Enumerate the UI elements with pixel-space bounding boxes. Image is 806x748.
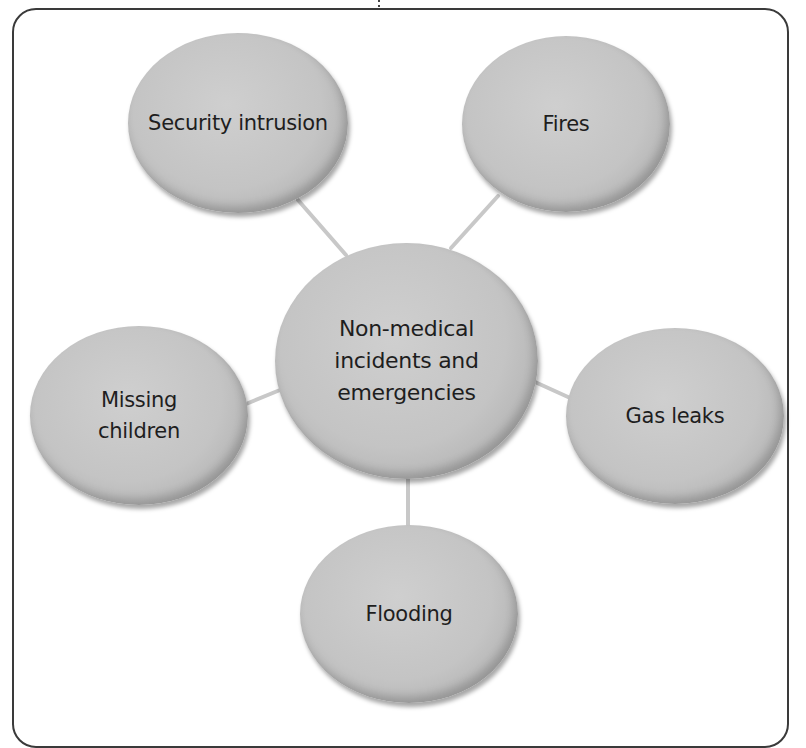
node-label: Security intrusion bbox=[148, 108, 328, 138]
node-label: Gas leaks bbox=[626, 401, 725, 431]
node-label-line-1: Missing bbox=[98, 385, 180, 415]
node-label-line-2: children bbox=[98, 416, 180, 446]
center-label-line-1: Non-medical bbox=[334, 313, 478, 345]
center-label-line-2: incidents and bbox=[334, 345, 478, 377]
node-security-intrusion: Security intrusion bbox=[128, 33, 348, 213]
node-gas-leaks: Gas leaks bbox=[566, 328, 784, 504]
node-missing-children: Missing children bbox=[30, 326, 248, 505]
connector-security bbox=[298, 200, 346, 255]
node-flooding: Flooding bbox=[300, 525, 518, 703]
node-center-topic: Non-medical incidents and emergencies bbox=[275, 243, 538, 479]
node-fires: Fires bbox=[462, 36, 670, 212]
connector-missing bbox=[246, 390, 280, 404]
node-label: Fires bbox=[543, 109, 590, 139]
node-label: Flooding bbox=[365, 599, 452, 629]
connector-fires bbox=[451, 196, 498, 248]
connector-gas bbox=[535, 382, 568, 397]
center-label-line-3: emergencies bbox=[334, 377, 478, 409]
